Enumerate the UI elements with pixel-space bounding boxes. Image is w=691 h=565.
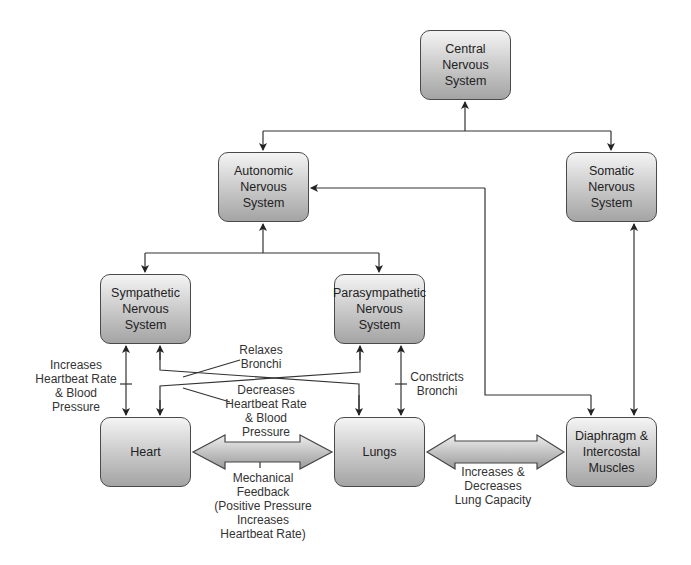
node-somatic-nervous-system: Somatic Nervous System [566, 152, 657, 222]
lungs-diaphragm-double-arrow [427, 435, 564, 469]
node-central-nervous-system: Central Nervous System [420, 30, 511, 100]
node-lungs: Lungs [334, 417, 425, 487]
label-relaxes-bronchi: Relaxes Bronchi [226, 343, 296, 371]
node-parasympathetic-nervous-system: Parasympathetic Nervous System [334, 274, 425, 344]
heart-lungs-double-arrow [193, 435, 332, 469]
node-diaphragm-intercostal-muscles: Diaphragm & Intercostal Muscles [566, 417, 657, 487]
label-lung-capacity: Increases & Decreases Lung Capacity [448, 465, 538, 507]
node-sympathetic-nervous-system: Sympathetic Nervous System [100, 274, 191, 344]
label-increases-heartbeat: Increases Heartbeat Rate & Blood Pressur… [30, 358, 122, 414]
label-mechanical-feedback: Mechanical Feedback (Positive Pressure I… [208, 471, 318, 541]
node-heart: Heart [100, 417, 191, 487]
node-autonomic-nervous-system: Autonomic Nervous System [218, 152, 309, 222]
nervous-system-diagram: Central Nervous System Autonomic Nervous… [0, 0, 691, 565]
label-decreases-heartbeat: Decreases Heartbeat Rate & Blood Pressur… [216, 383, 316, 439]
label-constricts-bronchi: Constricts Bronchi [407, 370, 467, 398]
